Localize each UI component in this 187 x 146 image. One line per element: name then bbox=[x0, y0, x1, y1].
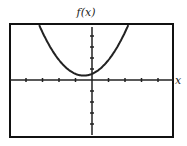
x-axis-label: x bbox=[175, 74, 182, 87]
y-axis-label: f(x) bbox=[76, 6, 96, 19]
parabola-curve bbox=[39, 25, 128, 76]
graph: f(x) x bbox=[0, 0, 187, 146]
